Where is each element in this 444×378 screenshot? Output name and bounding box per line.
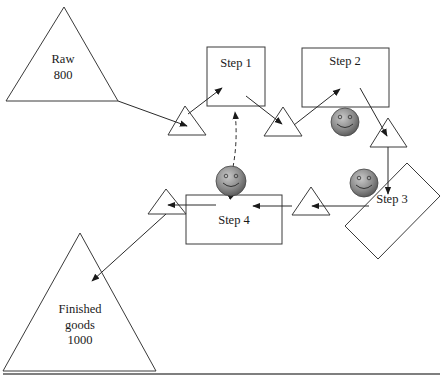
step3-label: Step 3 [376,192,408,206]
raw-label: Raw [52,52,75,66]
inventory-triangle-step1-step2 [264,107,302,136]
step1-box: Step 1 [207,47,265,106]
operator-smiley-icon-1 [216,166,246,196]
finished-quantity: 1000 [68,333,93,347]
arrow-inventory-to-finished [92,214,166,281]
operator-arrow-to-step1 [233,112,236,167]
step1-label: Step 1 [220,56,252,70]
finished-label-line1: Finished [58,302,102,316]
step4-label: Step 4 [218,213,250,227]
finished-label-line2: goods [65,318,95,332]
inventory-triangle-step2-step3 [370,118,407,147]
step2-box: Step 2 [302,48,389,107]
arrow-raw-to-inventory [118,101,187,126]
finished-goods-triangle: Finished goods 1000 [3,233,156,371]
step4-box: Step 4 [186,195,282,244]
raw-quantity: 800 [54,68,73,82]
inventory-triangle-step3-step4 [292,187,330,215]
inventory-triangle-raw-step1 [168,106,206,135]
step2-label: Step 2 [329,54,361,68]
operator-smiley-icon-2 [331,108,359,136]
inventory-triangle-step4-finished [148,189,186,214]
raw-inventory-triangle: Raw 800 [6,7,118,101]
operator-smiley-icon-3 [350,169,378,197]
process-flow-diagram: Raw 800 Step 1 Step 2 Step 3 Step 4 Fini… [0,0,444,378]
